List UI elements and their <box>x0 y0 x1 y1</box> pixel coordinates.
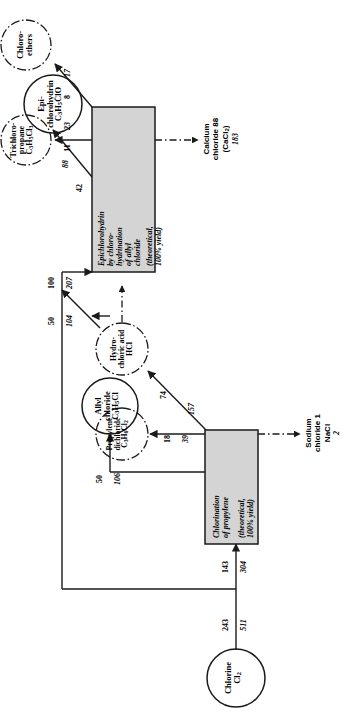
process-label-chlorination: Chlorination of propylene (theoretical, … <box>212 434 255 538</box>
flow-304: 304 <box>240 554 248 580</box>
flow-100: 100 <box>48 270 56 296</box>
flow-39: 39 <box>182 426 190 452</box>
flow-50b: 50 <box>48 308 56 334</box>
flow-74: 74 <box>160 382 168 408</box>
node-label-trichloropropane: Trichloro- propane C3H5Cl3 <box>10 106 35 174</box>
byproduct-label-calcium-chloride: Calcium chloride 88 (CaCl2) 183 <box>202 98 241 180</box>
flow-157: 157 <box>188 396 196 422</box>
node-label-chlorine: Chlorine Cl2 <box>224 648 243 708</box>
process-label-epichlorohydrin: Epichlorohydrin by chloro- hydrination o… <box>97 110 163 266</box>
node-label-chloroethers: Chloro- ethers <box>16 15 33 75</box>
flow-42: 42 <box>76 175 84 201</box>
flow-243: 243 <box>222 612 230 638</box>
flow-23: 23 <box>64 115 72 137</box>
node-label-epichlorohydrin: Epi- chlorohydrin C3H5ClO <box>37 68 64 140</box>
flow-18: 18 <box>164 426 172 452</box>
byproduct-label-sodium-chloride: Sodium chloride 1 NaCl 2 <box>304 394 342 472</box>
flow-207: 207 <box>66 270 74 296</box>
node-label-hydrochloric-acid: Hydro- chloric acid HCl <box>110 314 134 384</box>
flow-17: 17 <box>64 63 72 83</box>
flow-11: 11 <box>64 137 72 159</box>
flow-8: 8 <box>64 87 72 107</box>
flow-104: 104 <box>66 308 74 334</box>
flow-143: 143 <box>222 554 230 580</box>
node-label-propylene-dichloride: Propylene dichloride C3H6Cl2 <box>106 397 131 471</box>
flow-50a: 50 <box>96 466 104 492</box>
flow-511: 511 <box>240 612 248 638</box>
flow-106: 106 <box>114 466 122 492</box>
